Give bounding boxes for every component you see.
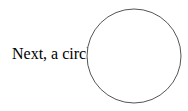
circle-shape <box>86 8 182 104</box>
circle-outline <box>87 9 181 103</box>
